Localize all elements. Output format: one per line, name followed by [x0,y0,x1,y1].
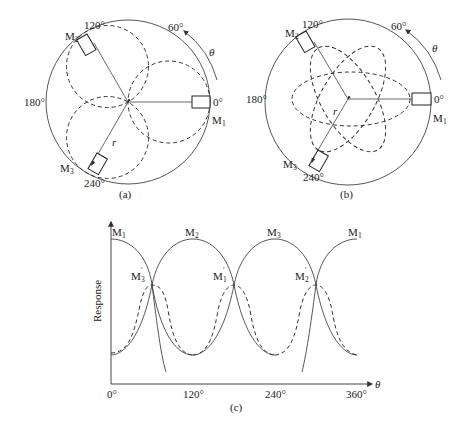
label-m3-top: M 3 [267,226,281,240]
caption-b: (b) [340,188,353,201]
svg-text:M: M [285,27,295,39]
label-m3-prime: M 3 ′ [131,266,145,284]
panel-c-chart: M 1 M 2 M 3 M 1 M 3 ′ M 1 ′ M 2 ′ [91,222,381,414]
theta-arrow [406,30,441,80]
mic-m2-box [77,34,96,56]
svg-text:M: M [185,226,195,238]
dashed-curves [111,285,357,355]
svg-text:2: 2 [75,35,79,44]
x-tick-360: 360° [346,388,367,400]
curve-m2 [111,239,275,355]
svg-text:2: 2 [305,275,309,284]
x-tick-240: 240° [265,388,286,400]
curve-m1-left [111,239,166,372]
label-m2-top: M 2 [185,226,199,240]
radius-label: r [333,105,338,117]
solid-curves [111,239,357,372]
svg-text:M: M [433,112,443,124]
svg-text:3: 3 [277,231,281,240]
curve-m1-valley [152,285,193,355]
svg-text:1: 1 [222,119,226,128]
angle-label-240: 240° [303,171,324,183]
label-m2-prime: M 2 ′ [295,266,309,284]
svg-text:2: 2 [195,231,199,240]
svg-text:2: 2 [295,32,299,41]
svg-text:′: ′ [223,266,225,275]
mic-m3-box [88,153,107,175]
mic-label-m2: M 2 [65,30,79,44]
svg-text:′: ′ [141,266,143,275]
curve-m2-prime [275,285,357,355]
svg-text:M: M [112,226,122,238]
label-m1-top-left: M 1 [112,226,126,240]
radius-label: r [112,136,117,148]
mic-label-m3: M 3 [60,162,74,176]
svg-text:1: 1 [358,231,362,240]
angle-label-120: 120° [302,18,323,30]
svg-text:′: ′ [305,266,307,275]
svg-text:1: 1 [122,231,126,240]
svg-text:1: 1 [443,117,447,126]
mic-m1-box [412,93,431,105]
mic-label-m1: M 1 [433,112,447,126]
x-tick-0: 0° [107,388,117,400]
curve-m1-prime [193,285,275,355]
angle-label-60: 60° [391,20,406,32]
y-axis-label: Response [91,280,103,322]
angle-label-180: 180° [246,93,267,105]
label-m1-top-right: M 1 [348,226,362,240]
svg-text:M: M [60,162,70,174]
mic-label-m2: M 2 [285,27,299,41]
angle-label-120: 120° [84,19,105,31]
x-tick-120: 120° [183,388,204,400]
svg-text:3: 3 [293,163,297,172]
angle-label-240: 240° [84,177,105,189]
mic-label-m3: M 3 [283,158,297,172]
panel-a: 0° 60° 120° 180° 240° θ r M 1 M 2 M 3 (a… [24,19,226,201]
angle-label-180: 180° [24,96,45,108]
label-m1-prime: M 1 ′ [213,266,227,284]
angle-label-0: 0° [213,96,223,108]
svg-text:M: M [131,270,141,282]
svg-text:M: M [213,270,223,282]
curve-m3 [193,239,357,355]
svg-text:3: 3 [141,275,145,284]
mic-m3-box [309,150,328,172]
figure-canvas: 0° 60° 120° 180° 240° θ r M 1 M 2 M 3 (a… [0,0,465,434]
svg-text:M: M [65,30,75,42]
svg-text:M: M [295,270,305,282]
svg-text:3: 3 [70,167,74,176]
caption-c: (c) [230,401,243,414]
theta-label: θ [209,46,215,58]
radial-m2 [314,42,348,99]
svg-text:1: 1 [223,275,227,284]
mic-m1-box [192,96,210,108]
x-axis-label: θ [375,378,381,390]
curve-m3-prime [111,285,193,355]
radial-m2 [94,43,128,102]
curve-m1-right [302,239,357,372]
svg-text:M: M [348,226,358,238]
svg-text:M: M [212,114,222,126]
caption-a: (a) [119,188,132,201]
panel-b: 0° 60° 120° 180° 240° θ r M 1 M 2 M 3 (b… [246,18,447,201]
angle-label-0: 0° [434,93,444,105]
angle-label-60: 60° [168,21,183,33]
svg-text:M: M [283,158,293,170]
theta-label: θ [432,42,438,54]
mic-label-m1: M 1 [212,114,226,128]
svg-text:M: M [267,226,277,238]
